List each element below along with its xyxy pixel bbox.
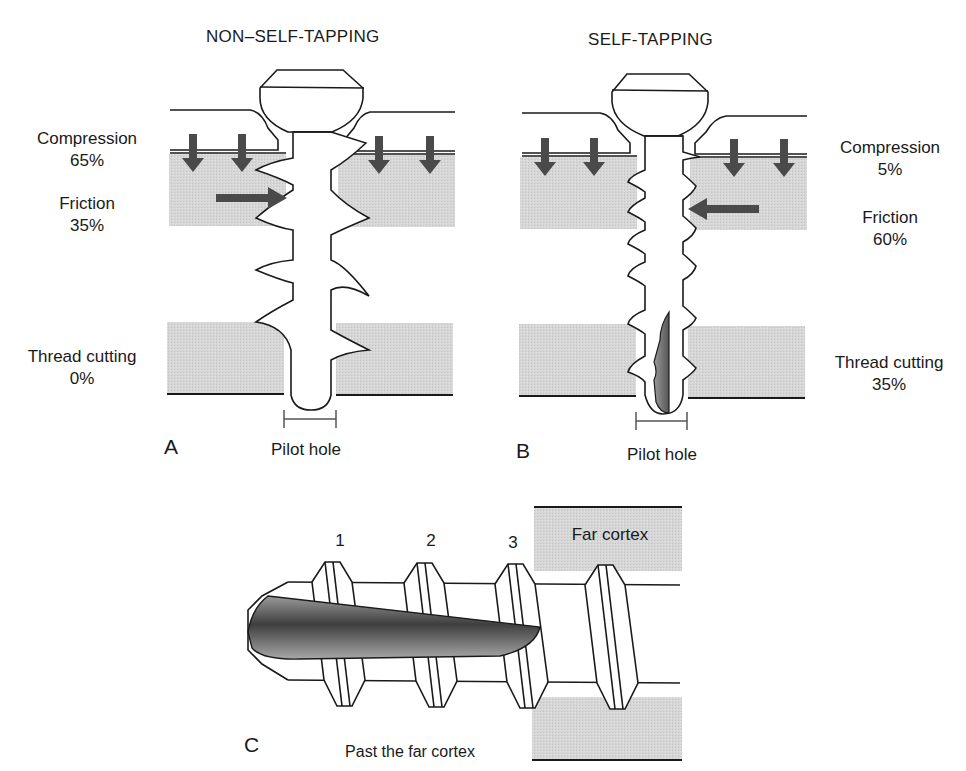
thread-number-3: 3 [506,532,520,554]
far-cortex-label: Far cortex [555,524,665,546]
cutting-flute [248,596,540,659]
pilot-hole-label-a: Pilot hole [256,439,356,461]
panel-b-self-tapping [519,74,807,430]
panel-a-non-self-tapping [167,70,455,428]
pilot-hole-bracket-a [284,410,336,428]
past-far-cortex-caption: Past the far cortex [330,741,490,763]
panel-letter-b: B [516,439,530,463]
far-cortex-right [688,326,805,398]
thread-cutting-label-b: Thread cutting 35% [812,352,966,396]
thread-crest-4 [585,565,638,709]
friction-label-b: Friction 60% [820,207,960,251]
screw-shaft-side-view [248,562,680,709]
thread-number-2: 2 [425,530,437,552]
far-cortex-left [519,324,636,396]
thread-number-1: 1 [334,530,346,552]
friction-label-a: Friction 35% [22,193,152,237]
far-cortex-right [336,323,453,395]
compression-label-b: Compression 5% [820,137,960,181]
thread-cutting-label-a: Thread cutting 0% [12,346,152,390]
far-cortex-bottom [532,697,682,760]
far-cortex-left [167,322,284,394]
panel-b-title: SELF-TAPPING [588,30,713,50]
panel-a-title: NON–SELF-TAPPING [206,27,380,47]
pilot-hole-label-b: Pilot hole [612,444,712,466]
near-cortex-left [520,157,637,229]
panel-letter-c: C [244,733,259,757]
panel-letter-a: A [164,435,178,459]
compression-label-a: Compression 65% [22,128,152,172]
